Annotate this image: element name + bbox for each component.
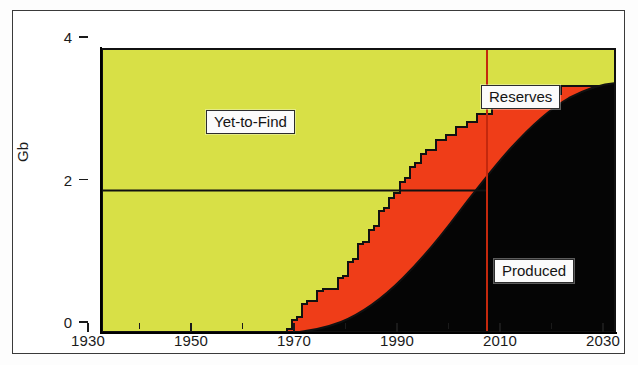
x-tick-minor-1940 (139, 323, 141, 329)
x-tick-minor-1960 (242, 323, 244, 329)
y-tick-label-2: 2 (64, 171, 72, 188)
callout-reserves: Reserves (481, 85, 560, 109)
y-axis-title: Gb (14, 142, 31, 162)
x-tick-2030 (602, 323, 604, 332)
y-tick-4 (79, 36, 88, 38)
y-tick-label-0: 0 (64, 314, 72, 331)
x-tick-minor-2020 (551, 323, 553, 329)
x-tick-label-1950: 1950 (174, 332, 208, 349)
x-tick-2010 (499, 323, 501, 332)
y-axis-line (100, 47, 102, 334)
y-tick-label-group: 024 (48, 0, 72, 365)
x-tick-1950 (190, 323, 192, 332)
x-tick-1970 (293, 323, 295, 332)
figure-container: Yet-to-Find Reserves Produced Gb 024 193… (0, 0, 638, 365)
callout-yet-to-find: Yet-to-Find (206, 110, 295, 134)
x-tick-label-1990: 1990 (380, 332, 414, 349)
x-tick-minor-2000 (448, 323, 450, 329)
x-tick-minor-1980 (345, 323, 347, 329)
y-tick-2 (79, 179, 88, 181)
callout-produced: Produced (494, 259, 574, 283)
y-tick-label-4: 4 (64, 29, 72, 46)
x-tick-label-1930: 1930 (71, 332, 105, 349)
x-tick-1990 (396, 323, 398, 332)
x-tick-label-2030: 2030 (586, 332, 620, 349)
x-tick-label-2010: 2010 (483, 332, 517, 349)
x-tick-label-1970: 1970 (277, 332, 311, 349)
x-tick-1930 (87, 323, 89, 332)
figure-frame: Yet-to-Find Reserves Produced (12, 10, 625, 354)
